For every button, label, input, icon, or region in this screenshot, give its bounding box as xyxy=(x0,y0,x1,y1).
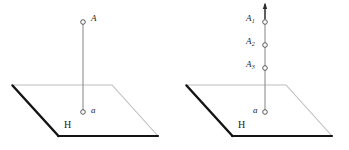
plane-edge-left-dark xyxy=(13,86,59,137)
point-label-A2: A2 xyxy=(246,37,255,46)
point-label-A1: A1 xyxy=(246,14,255,23)
arrowhead-up-icon xyxy=(263,3,267,10)
point-label-A3: A3 xyxy=(246,60,255,69)
point-marker-A2 xyxy=(263,43,268,48)
point-marker-A3 xyxy=(263,66,268,71)
plane-label-H: H xyxy=(238,120,245,130)
right-panel-canvas xyxy=(174,0,349,150)
left-panel-canvas xyxy=(0,0,175,150)
diagram-panel-right: A1 A2 A3 a H xyxy=(174,0,349,150)
point-marker-a xyxy=(263,110,268,115)
point-marker-A1 xyxy=(263,20,268,25)
point-marker-a xyxy=(81,110,86,115)
diagram-panel-left: A a H xyxy=(0,0,175,150)
point-label-a: a xyxy=(253,106,258,115)
plane-edge-left-dark xyxy=(187,86,233,137)
geometry-figure: A a H A1 A2 xyxy=(0,0,349,150)
point-marker-A xyxy=(81,20,86,25)
plane-label-H: H xyxy=(64,120,71,130)
point-label-A: A xyxy=(91,14,97,23)
point-label-a: a xyxy=(91,106,96,115)
